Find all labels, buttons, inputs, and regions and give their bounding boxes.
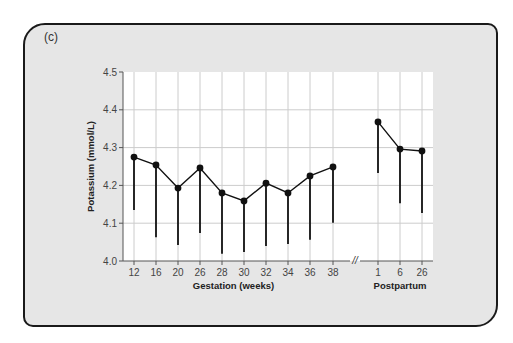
x-tick-label: 32 [260,267,272,278]
data-point [419,148,426,155]
x-axis-title: Postpartum [374,280,427,291]
y-tick-label: 4.5 [103,67,117,78]
data-point [375,118,382,125]
data-point [219,190,226,197]
data-point [197,165,204,172]
data-point [397,146,404,153]
x-tick-label: 38 [327,267,339,278]
data-point [153,162,160,169]
y-tick-label: 4.2 [103,180,117,191]
potassium-chart: 4.04.14.24.34.44.5//Potassium (mmol/L)12… [0,0,513,343]
x-tick-label: 26 [416,267,428,278]
x-tick-label: 20 [172,267,184,278]
x-tick-label: 28 [216,267,228,278]
plot-area [123,72,433,261]
y-tick-label: 4.4 [103,104,117,115]
x-tick-label: 34 [282,267,294,278]
y-tick-label: 4.0 [103,256,117,267]
x-tick-label: 36 [304,267,316,278]
data-point [131,154,138,161]
x-tick-label: 26 [194,267,206,278]
y-axis-title: Potassium (mmol/L) [85,121,96,212]
data-point [285,190,292,197]
data-point [307,173,314,180]
data-point [175,185,182,192]
y-tick-label: 4.1 [103,218,117,229]
data-point [241,197,248,204]
data-point [330,163,337,170]
x-axis-title: Gestation (weeks) [193,280,274,291]
x-tick-label: 1 [375,267,381,278]
x-tick-label: 12 [128,267,140,278]
x-tick-label: 6 [397,267,403,278]
y-tick-label: 4.3 [103,142,117,153]
x-tick-label: 30 [238,267,250,278]
data-point [263,180,270,187]
x-tick-label: 16 [150,267,162,278]
